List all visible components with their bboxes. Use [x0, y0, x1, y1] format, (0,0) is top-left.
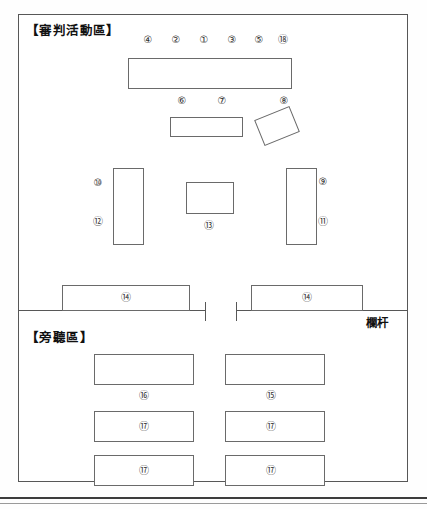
- marker-12: ⑫: [93, 217, 103, 227]
- page-bottom-rule: [0, 497, 427, 499]
- marker-6: ⑥: [178, 96, 187, 106]
- marker-5: ⑤: [255, 35, 264, 45]
- marker-16: ⑯: [139, 391, 149, 401]
- marker-17-right-row3: ⑰: [266, 466, 276, 476]
- courtroom-floor-plan-diagram: 【審判活動區】 【旁聽區】 ④ ② ① ③ ⑤ ⑱ ⑥ ⑦ ⑧ ⑩ ⑫ ⑨ ⑪ …: [0, 0, 427, 509]
- marker-7: ⑦: [218, 96, 227, 106]
- marker-13: ⑬: [204, 221, 214, 231]
- marker-17-left-row2: ⑰: [139, 422, 149, 432]
- marker-17-left-row3: ⑰: [139, 466, 149, 476]
- marker-15: ⑮: [266, 391, 276, 401]
- center-table: [186, 182, 234, 214]
- marker-17-right-row2: ⑰: [266, 422, 276, 432]
- section-title-trial-area: 【審判活動區】: [26, 20, 120, 39]
- marker-1: ①: [200, 35, 209, 45]
- gallery-bench-left-row1: [94, 354, 194, 385]
- marker-11: ⑪: [318, 217, 328, 227]
- marker-18: ⑱: [278, 35, 288, 45]
- marker-2: ②: [172, 35, 181, 45]
- railing-gate-post-right: [236, 302, 237, 321]
- railing-label: 欄杆: [366, 314, 388, 330]
- clerk-table: [170, 117, 243, 137]
- marker-10: ⑩: [94, 178, 103, 188]
- judges-bench: [128, 58, 292, 89]
- section-title-public-gallery: 【旁聽區】: [26, 327, 93, 346]
- left-party-bench: [113, 168, 144, 245]
- page-bottom-rule-secondary: [0, 503, 427, 504]
- right-party-bench: [286, 168, 317, 245]
- gallery-bench-right-row1: [225, 354, 325, 385]
- marker-14-right: ⑭: [302, 293, 312, 303]
- marker-3: ③: [228, 35, 237, 45]
- railing-gate-post-left: [205, 302, 206, 321]
- marker-9: ⑨: [319, 177, 328, 187]
- marker-14-left: ⑭: [121, 293, 131, 303]
- marker-4: ④: [144, 35, 153, 45]
- marker-8: ⑧: [280, 96, 289, 106]
